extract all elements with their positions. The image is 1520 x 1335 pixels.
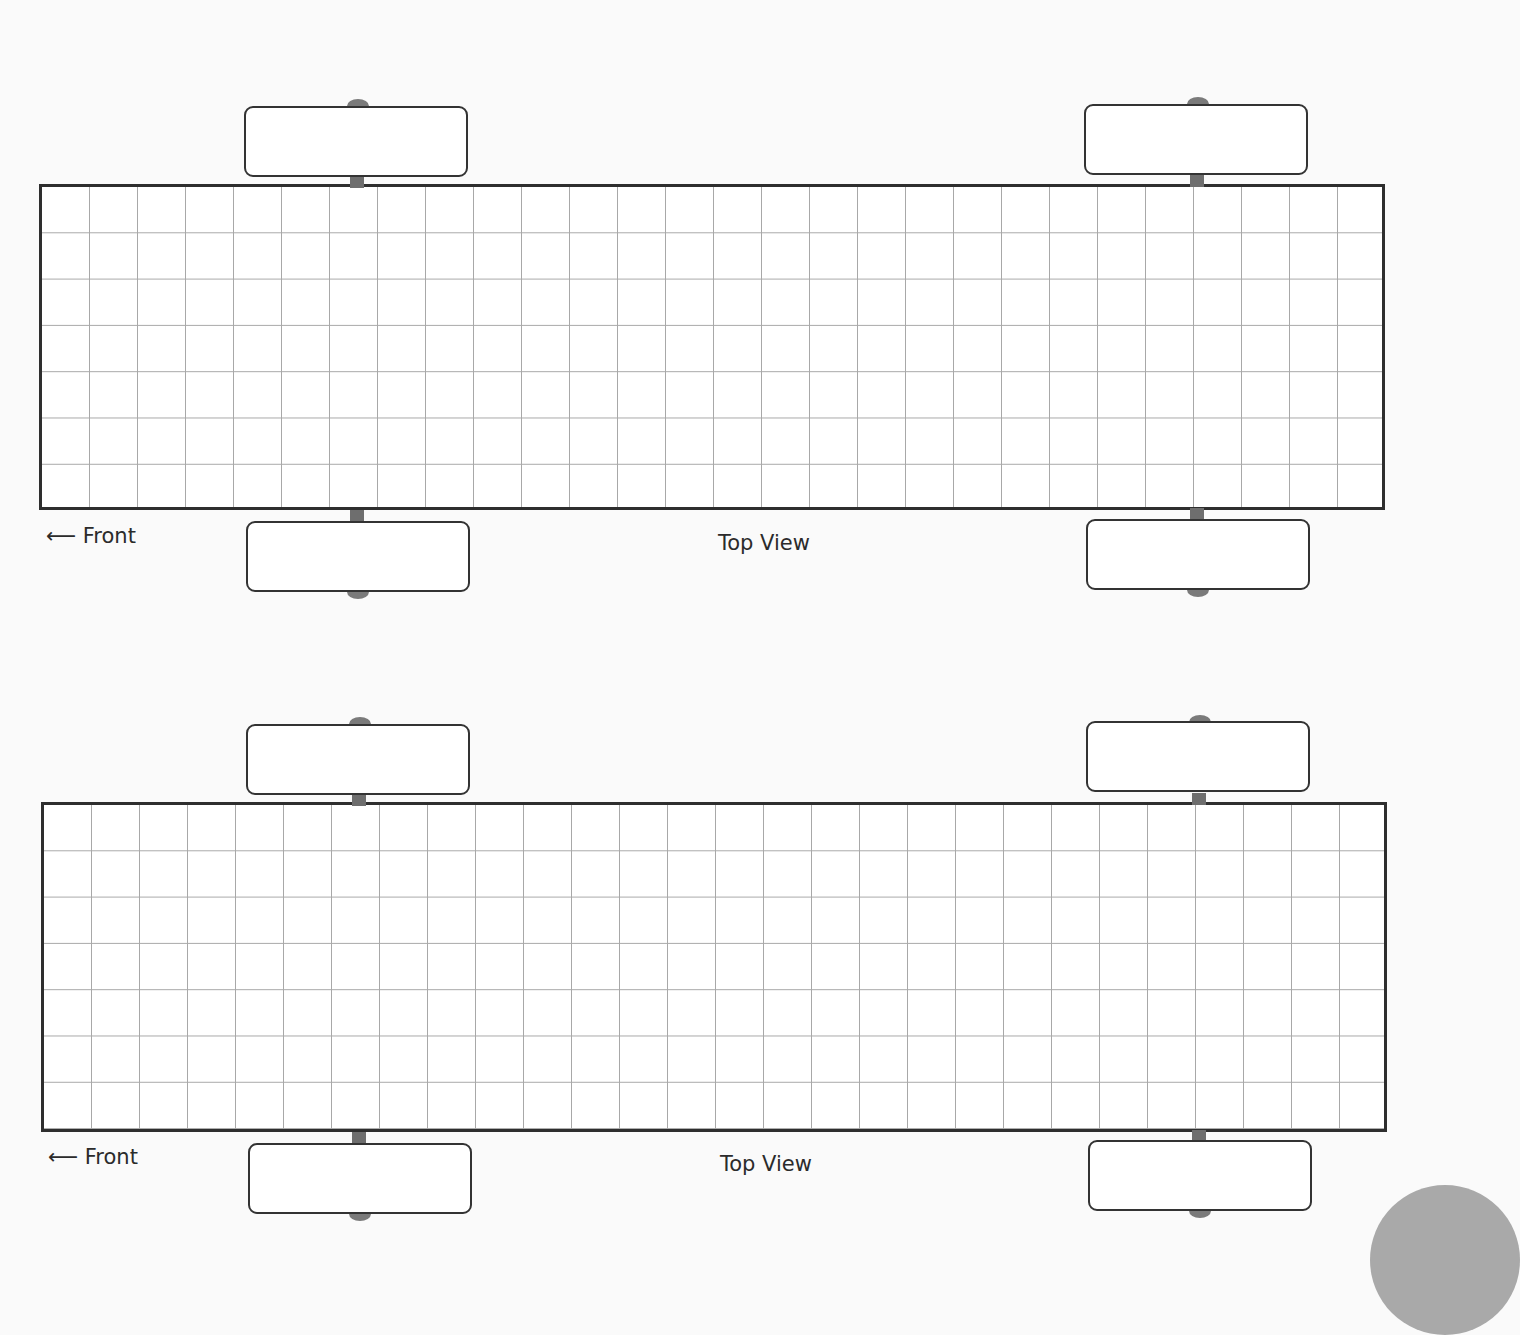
axle-icon	[350, 176, 364, 188]
grid-board	[41, 802, 1387, 1132]
front-right-wheel	[248, 1143, 472, 1214]
car-template-2: ⟵ Front Top View	[0, 618, 1450, 1138]
rear-left-wheel	[1084, 104, 1308, 175]
view-label: Top View	[720, 1152, 812, 1176]
axle-icon	[352, 794, 366, 806]
axle-icon	[1192, 793, 1206, 805]
front-left-wheel	[244, 106, 468, 177]
view-label: Top View	[718, 531, 810, 555]
axle-icon	[1190, 175, 1204, 187]
front-label: ⟵ Front	[48, 1145, 138, 1169]
rear-right-wheel	[1086, 519, 1310, 590]
page-corner-decoration	[1370, 1185, 1520, 1335]
front-right-wheel	[246, 521, 470, 592]
car-template-1: ⟵ Front Top View	[0, 0, 1450, 520]
grid-board	[39, 184, 1385, 510]
rear-right-wheel	[1088, 1140, 1312, 1211]
rear-left-wheel	[1086, 721, 1310, 792]
front-label: ⟵ Front	[46, 524, 136, 548]
front-left-wheel	[246, 724, 470, 795]
